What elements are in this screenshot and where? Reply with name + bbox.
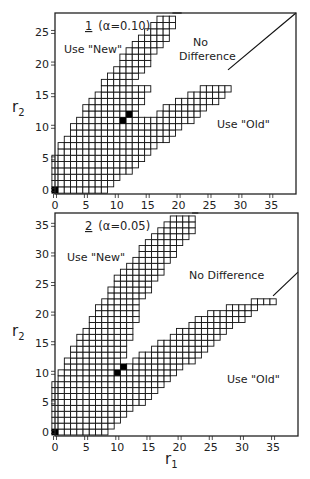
lower-boundary-line: [273, 272, 298, 296]
region-label-old: Use "Old": [217, 118, 270, 131]
y-tick-label: 20: [35, 58, 49, 71]
x-tick-label: 10: [110, 199, 124, 212]
region-label-no-difference: No Difference: [189, 269, 264, 282]
filled-cell: [114, 370, 120, 376]
region-label-no-difference: Difference: [179, 50, 236, 63]
y-tick-label: 30: [35, 248, 49, 261]
x-tick-label: 30: [233, 199, 247, 212]
x-tick-label: 35: [264, 199, 278, 212]
filled-cell: [120, 364, 126, 370]
y-axis-label-top: r2: [12, 98, 25, 118]
x-tick-label: 25: [204, 441, 218, 454]
y-tick-label: 5: [42, 152, 49, 165]
x-tick-label: 35: [266, 441, 280, 454]
y-tick-label: 5: [42, 396, 49, 409]
panel-title: 1(α=0.10): [85, 19, 150, 33]
y-tick-label: 20: [35, 308, 49, 321]
y-tick-label: 0: [42, 184, 49, 197]
x-tick-label: 20: [173, 441, 187, 454]
region-label-new: Use "New": [67, 251, 125, 264]
panel-alpha-010: 0510152025051015202530351(α=0.10)Use "Ne…: [35, 13, 296, 212]
y-tick-label: 25: [35, 26, 49, 39]
filled-cell: [126, 111, 132, 117]
filled-cell: [120, 117, 126, 123]
x-tick-label: 15: [141, 199, 155, 212]
y-tick-label: 10: [35, 121, 49, 134]
panel-title: 2(α=0.05): [85, 219, 150, 233]
y-tick-label: 15: [35, 89, 49, 102]
x-tick-label: 20: [172, 199, 186, 212]
x-tick-label: 30: [235, 441, 249, 454]
x-tick-label: 5: [82, 199, 89, 212]
x-tick-label: 15: [141, 441, 155, 454]
decision-grid: [52, 216, 276, 435]
x-tick-label: 10: [110, 441, 124, 454]
region-label-old: Use "Old": [227, 373, 280, 386]
region-label-new: Use "New": [64, 43, 122, 56]
lower-boundary-line: [228, 13, 296, 70]
y-tick-label: 10: [35, 367, 49, 380]
x-tick-label: 0: [52, 199, 59, 212]
panel-alpha-005: 05101520253035051015202530352(α=0.05)Use…: [35, 213, 298, 454]
x-tick-label: 5: [83, 441, 90, 454]
y-axis-label-bottom: r2: [12, 322, 25, 342]
region-label-no-difference: No: [193, 36, 208, 49]
y-tick-label: 25: [35, 278, 49, 291]
x-tick-label: 0: [52, 441, 59, 454]
y-tick-label: 15: [35, 337, 49, 350]
figure: 0510152025051015202530351(α=0.10)Use "Ne…: [0, 0, 310, 479]
x-tick-label: 25: [202, 199, 216, 212]
y-tick-label: 0: [42, 426, 49, 439]
y-tick-label: 35: [35, 219, 49, 232]
